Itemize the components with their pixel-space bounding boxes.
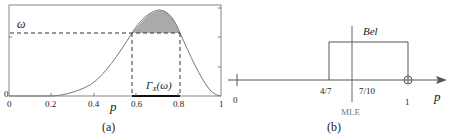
svg-text:0.8: 0.8 bbox=[173, 99, 185, 109]
mle-label: MLE bbox=[341, 107, 361, 117]
shaded-area bbox=[132, 11, 180, 33]
bel-label: Bel bbox=[363, 25, 378, 37]
svg-text:0.6: 0.6 bbox=[131, 99, 143, 109]
four-sevenths-label: 4/7 bbox=[320, 86, 332, 96]
likelihood-curve bbox=[9, 10, 221, 96]
svg-text:0.4: 0.4 bbox=[88, 99, 100, 109]
panel-b: Bel 0 4/7 7/10 1 p MLE (b) bbox=[228, 25, 447, 134]
caption-a: (a) bbox=[102, 120, 115, 134]
panel-a: 0 ω ΓX(ω) 0 0.2 0.4 0.6 0.8 1 p (a) bbox=[4, 5, 224, 134]
svg-text:1: 1 bbox=[219, 99, 224, 109]
plot-frame bbox=[9, 5, 221, 96]
interval-label: ΓX(ω) bbox=[145, 79, 172, 93]
svg-text:0: 0 bbox=[7, 99, 12, 109]
y-zero-label: 0 bbox=[4, 89, 9, 99]
figure: 0 ω ΓX(ω) 0 0.2 0.4 0.6 0.8 1 p (a) Bel … bbox=[0, 0, 449, 137]
svg-text:0.2: 0.2 bbox=[45, 99, 56, 109]
caption-b: (b) bbox=[327, 120, 341, 134]
one-label: 1 bbox=[405, 97, 410, 107]
zero-label: 0 bbox=[233, 95, 238, 105]
omega-label: ω bbox=[17, 17, 25, 31]
x-axis-label: p bbox=[109, 99, 117, 114]
seven-tenths-label: 7/10 bbox=[359, 86, 376, 96]
bel-box bbox=[329, 42, 408, 80]
axis-p-label: p bbox=[433, 89, 441, 104]
